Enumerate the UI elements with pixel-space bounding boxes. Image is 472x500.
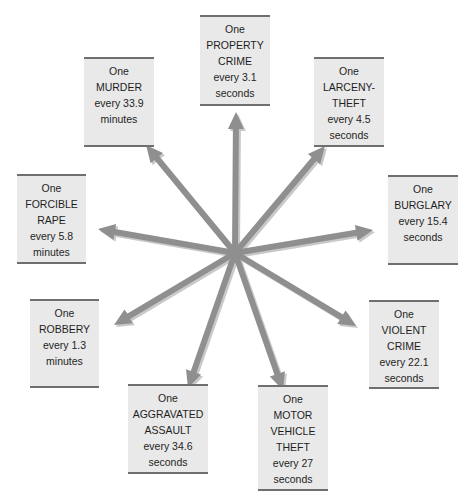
box-line: every 5.8: [17, 228, 86, 244]
box-line: PROPERTY: [200, 37, 270, 53]
box-line: seconds: [258, 471, 328, 487]
box-line: One: [314, 63, 384, 79]
box-line: minutes: [30, 353, 99, 369]
box-line: seconds: [200, 85, 270, 101]
box-line: MOTOR: [258, 407, 328, 423]
box-motor-vehicle-theft: One MOTOR VEHICLE THEFT every 27 seconds: [258, 385, 328, 491]
arrow-motor-vehicle-theft: [232, 252, 285, 390]
box-aggravated-assault: One AGGRAVATED ASSAULT every 34.6 second…: [128, 384, 208, 474]
arrow-violent-crime: [234, 250, 357, 326]
box-robbery: One ROBBERY every 1.3 minutes: [30, 299, 99, 388]
box-line: One: [128, 390, 208, 406]
box-line: ROBBERY: [30, 321, 99, 337]
box-line: every 15.4: [388, 213, 458, 229]
arrow-property-crime: [228, 112, 244, 253]
box-line: One: [258, 391, 328, 407]
box-line: seconds: [314, 127, 384, 143]
box-larceny-theft: One LARCENY- THEFT every 4.5 seconds: [314, 57, 384, 147]
box-line: every 27: [258, 455, 328, 471]
box-line: every 34.6: [128, 438, 208, 454]
box-line: VEHICLE: [258, 423, 328, 439]
box-violent-crime: One VIOLENT CRIME every 22.1 seconds: [369, 300, 439, 389]
center-hub: [229, 247, 241, 259]
box-line: every 22.1: [369, 354, 439, 370]
box-line: THEFT: [314, 95, 384, 111]
box-burglary: One BURGLARY every 15.4 seconds: [388, 175, 458, 265]
box-line: One: [30, 305, 99, 321]
box-line: MURDER: [84, 79, 154, 95]
box-line: every 3.1: [200, 69, 270, 85]
box-line: seconds: [128, 454, 208, 470]
box-line: One: [388, 181, 458, 197]
box-line: One: [369, 306, 439, 322]
box-line: every 1.3: [30, 337, 99, 353]
box-line: seconds: [369, 370, 439, 386]
box-property-crime: One PROPERTY CRIME every 3.1 seconds: [200, 15, 270, 106]
box-line: minutes: [84, 111, 154, 127]
box-line: VIOLENT: [369, 322, 439, 338]
box-line: minutes: [17, 244, 86, 260]
box-forcible-rape: One FORCIBLE RAPE every 5.8 minutes: [17, 174, 86, 264]
box-line: every 4.5: [314, 111, 384, 127]
box-line: One: [84, 63, 154, 79]
box-line: One: [17, 180, 86, 196]
box-murder: One MURDER every 33.9 minutes: [84, 57, 154, 147]
box-line: AGGRAVATED: [128, 406, 208, 422]
box-line: One: [200, 21, 270, 37]
box-line: seconds: [388, 229, 458, 245]
box-line: CRIME: [200, 53, 270, 69]
box-line: FORCIBLE: [17, 196, 86, 212]
box-line: LARCENY-: [314, 79, 384, 95]
box-line: BURGLARY: [388, 197, 458, 213]
box-line: every 33.9: [84, 95, 154, 111]
box-line: CRIME: [369, 338, 439, 354]
box-line: RAPE: [17, 212, 86, 228]
box-line: ASSAULT: [128, 422, 208, 438]
crime-clock-diagram: One PROPERTY CRIME every 3.1 seconds One…: [0, 0, 472, 500]
box-line: THEFT: [258, 439, 328, 455]
